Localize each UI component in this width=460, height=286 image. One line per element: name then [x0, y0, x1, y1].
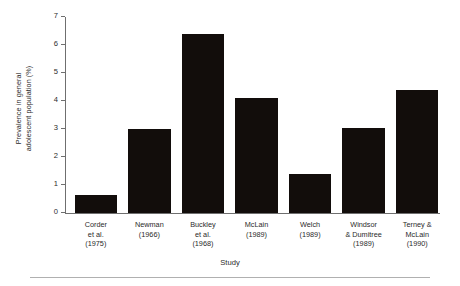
- y-axis-tick-label: 1: [54, 179, 58, 188]
- y-axis-tick: 0: [61, 212, 65, 213]
- y-axis-tick: 5: [61, 72, 65, 73]
- y-axis-tick: 1: [61, 184, 65, 185]
- y-axis-tick-label: 7: [54, 11, 58, 20]
- y-axis-title-line-1: Prevalence in general: [15, 65, 25, 151]
- y-axis-tick-label: 6: [54, 39, 58, 48]
- bar: [235, 98, 277, 213]
- y-axis-title-line-2: adolescent population (%): [24, 65, 34, 151]
- y-axis-tick-label: 0: [54, 207, 58, 216]
- y-axis-tick: 4: [61, 100, 65, 101]
- y-axis-tick: 2: [61, 156, 65, 157]
- bar: [289, 174, 331, 213]
- x-axis-tick-label-line: (1975): [51, 239, 141, 249]
- bar: [75, 195, 117, 213]
- y-axis-tick-label: 4: [54, 95, 58, 104]
- x-axis-tick-label: Terney &McLain(1990): [372, 220, 460, 249]
- x-axis-tick-label-line: McLain: [372, 230, 460, 240]
- y-axis-tick: 3: [61, 128, 65, 129]
- y-axis-tick: 6: [61, 44, 65, 45]
- x-axis-line: [65, 213, 440, 214]
- bar: [342, 128, 384, 213]
- x-axis-tick-label-line: (1990): [372, 239, 460, 249]
- x-axis-title: Study: [0, 258, 460, 267]
- y-axis-title: Prevalence in general adolescent populat…: [0, 0, 48, 216]
- bar: [182, 34, 224, 213]
- x-axis-tick-label-line: Terney &: [372, 220, 460, 230]
- y-axis-tick: 7: [61, 16, 65, 17]
- bar: [396, 90, 438, 213]
- x-axis-tick-label-line: (1968): [158, 239, 248, 249]
- bottom-divider: [30, 277, 430, 278]
- y-axis-tick-label: 2: [54, 151, 58, 160]
- bar-chart-figure: Prevalence in general adolescent populat…: [0, 0, 460, 286]
- bar: [128, 129, 170, 213]
- y-axis-line: [65, 17, 66, 213]
- plot-area: 01234567: [65, 17, 440, 213]
- y-axis-tick-label: 5: [54, 67, 58, 76]
- y-axis-tick-label: 3: [54, 123, 58, 132]
